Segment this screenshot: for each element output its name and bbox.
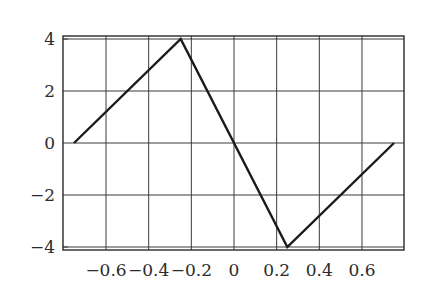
y-axis-tick-labels: 420−2−4 [30,29,55,257]
x-tick-label: 0.2 [263,260,290,280]
y-tick-label: 2 [44,81,55,101]
y-tick-label: −4 [30,237,55,257]
x-axis-tick-labels: −0.6−0.4−0.200.20.40.6 [85,260,375,280]
x-tick-label: 0 [229,260,240,280]
x-tick-label: −0.4 [128,260,169,280]
y-tick-label: −2 [30,185,55,205]
x-tick-label: −0.6 [85,260,126,280]
line-chart: −0.6−0.4−0.200.20.40.6 420−2−4 [0,0,424,287]
x-tick-label: 0.6 [348,260,375,280]
y-tick-label: 0 [44,133,55,153]
x-tick-label: −0.2 [171,260,212,280]
x-tick-label: 0.4 [306,260,333,280]
y-tick-label: 4 [44,29,55,49]
